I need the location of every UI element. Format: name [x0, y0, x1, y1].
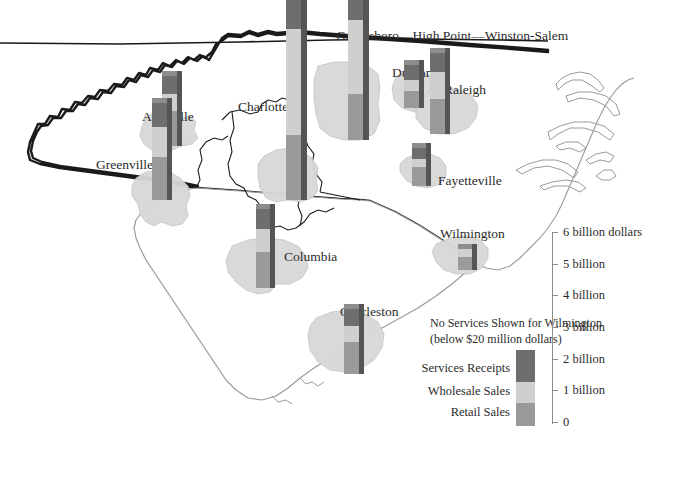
- bar-top: [344, 304, 359, 309]
- scale-tick-label-2: 2 billion: [563, 353, 605, 366]
- bar-segment-retail: [348, 94, 363, 140]
- scale-tick-4: [552, 295, 558, 296]
- legend-label-services: Services Receipts: [376, 362, 510, 375]
- legend-bar-segment-wholesale: [516, 382, 535, 403]
- bar-segment-retail: [412, 167, 426, 186]
- bar-segment-services: [344, 309, 359, 326]
- scale-tick-5: [552, 264, 558, 265]
- bar-side: [359, 304, 364, 374]
- bar-side: [363, 0, 369, 140]
- bar-side: [301, 0, 307, 200]
- city-label-greenville: Greenville: [96, 158, 153, 172]
- city-bar-charlotte: [286, 0, 301, 200]
- city-bar-charleston: [344, 309, 359, 374]
- city-label-raleigh: Raleigh: [444, 83, 486, 97]
- bar-segment-wholesale: [256, 229, 270, 251]
- bar-side: [177, 71, 182, 146]
- scale-tick-label-6: 6 billion dollars: [563, 226, 642, 239]
- bar-top: [458, 244, 472, 249]
- bar-face: [412, 148, 426, 186]
- legend-sample-bar: [516, 350, 535, 426]
- bar-segment-services: [348, 0, 363, 20]
- state-outlines: [0, 31, 634, 404]
- bar-segment-wholesale: [404, 80, 419, 91]
- city-bar-greenville: [152, 103, 167, 200]
- city-bar-wilmington: [458, 249, 472, 270]
- bar-segment-services: [404, 65, 419, 79]
- bar-top: [404, 60, 419, 65]
- bar-side: [419, 60, 424, 108]
- outer-banks: [516, 72, 620, 192]
- legend-label-retail: Retail Sales: [376, 406, 510, 419]
- bar-segment-services: [430, 53, 445, 72]
- scale-tick-label-3: 3 billion: [563, 321, 605, 334]
- bar-face: [458, 249, 472, 270]
- legend-bar-segment-services: [516, 350, 535, 382]
- bar-segment-retail: [430, 99, 445, 134]
- bar-face: [404, 65, 419, 108]
- city-bar-durham: [404, 65, 419, 108]
- bar-side: [167, 98, 172, 200]
- bar-side: [426, 143, 431, 186]
- bar-segment-services: [256, 209, 270, 230]
- city-bar-columbia: [256, 209, 270, 288]
- bar-top: [256, 204, 270, 209]
- bar-segment-retail: [458, 257, 472, 270]
- scale-tick-3: [552, 327, 558, 328]
- map-figure: Greensboro—High Point—Winston-Salem Ashe…: [0, 0, 690, 477]
- bar-face: [286, 0, 301, 200]
- bar-segment-retail: [344, 342, 359, 374]
- bar-face: [152, 103, 167, 200]
- bar-top: [162, 71, 177, 76]
- city-bar-greensboro: [348, 0, 363, 140]
- city-bar-fayetteville: [412, 148, 426, 186]
- scale-axis-line: [552, 232, 553, 424]
- scale-tick-label-1: 1 billion: [563, 384, 605, 397]
- bar-segment-wholesale: [412, 159, 426, 167]
- bar-segment-services: [162, 76, 177, 93]
- legend-label-wholesale: Wholesale Sales: [376, 385, 510, 398]
- bar-segment-wholesale: [344, 326, 359, 342]
- bar-face: [348, 0, 363, 140]
- bar-segment-wholesale: [430, 72, 445, 99]
- corridor-label: Greensboro—High Point—Winston-Salem: [336, 29, 568, 43]
- bar-top: [412, 143, 426, 148]
- bar-segment-services: [286, 0, 301, 29]
- scale-tick-1: [552, 390, 558, 391]
- bar-segment-retail: [404, 91, 419, 108]
- value-scale: 6 billion dollars5 billion4 billion3 bil…: [552, 226, 682, 430]
- bar-segment-wholesale: [286, 29, 301, 135]
- bar-side: [270, 204, 275, 288]
- city-bar-raleigh: [430, 53, 445, 134]
- city-label-fayetteville: Fayetteville: [438, 174, 502, 188]
- bar-side: [472, 244, 477, 270]
- bar-side: [445, 48, 450, 134]
- city-label-wilmington: Wilmington: [440, 227, 505, 241]
- bar-top: [152, 98, 167, 103]
- bar-segment-retail: [256, 252, 270, 288]
- city-label-charlotte: Charlotte: [238, 100, 288, 114]
- bar-segment-wholesale: [152, 127, 167, 157]
- bar-face: [344, 309, 359, 374]
- bar-face: [430, 53, 445, 134]
- scale-tick-label-5: 5 billion: [563, 258, 605, 271]
- bar-segment-wholesale: [348, 20, 363, 94]
- bar-segment-services: [152, 103, 167, 127]
- bar-face: [256, 209, 270, 288]
- scale-tick-2: [552, 359, 558, 360]
- scale-tick-6: [552, 232, 558, 233]
- bar-segment-services: [412, 148, 426, 159]
- city-label-columbia: Columbia: [284, 250, 337, 264]
- legend-bar-face: [516, 350, 535, 426]
- bar-segment-retail: [152, 157, 167, 200]
- bar-segment-retail: [286, 135, 301, 200]
- legend-bar-top: [516, 426, 535, 430]
- scale-tick-0: [552, 422, 558, 423]
- legend-bar-segment-retail: [516, 403, 535, 426]
- scale-tick-label-4: 4 billion: [563, 289, 605, 302]
- bar-segment-wholesale: [458, 249, 472, 257]
- scale-tick-label-0: 0: [563, 416, 569, 429]
- metro-greensboro: [314, 62, 380, 140]
- bar-top: [430, 48, 445, 53]
